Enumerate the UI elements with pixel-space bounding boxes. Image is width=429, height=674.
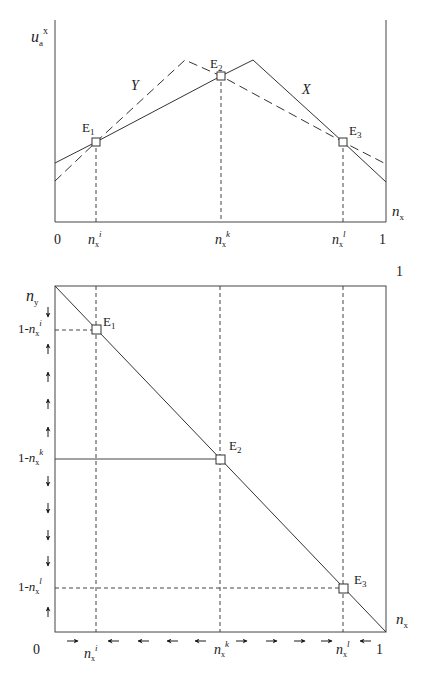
top-x-tick-ni: nxi <box>88 229 102 249</box>
top-y-axis-label: uax <box>31 25 48 48</box>
top-x-tick-nl: nxl <box>332 229 346 249</box>
bottom-e3-label: E3 <box>354 572 367 589</box>
bottom-x-tick-nk: nxk <box>214 639 230 659</box>
bottom-y-tick-ni: 1-nxi <box>18 318 42 338</box>
top-e2-label: E2 <box>210 56 222 73</box>
top-e3-label: E3 <box>349 123 362 140</box>
bottom-y-axis-label: ny <box>26 287 39 307</box>
curve-x-label: X <box>301 82 311 97</box>
diagram-canvas: E1 E2 E3 Y X uax nx 0 nxi nxk nxl 1 1 <box>0 0 429 674</box>
bottom-x-tick-ni: nxi <box>84 643 98 663</box>
bottom-x-axis-label: nx <box>396 611 409 630</box>
top-x-tick-0: 0 <box>54 232 61 247</box>
top-e2-marker <box>217 72 225 80</box>
stray-label: 1 <box>396 264 403 279</box>
curve-y-label: Y <box>131 78 141 93</box>
top-x-tick-nk: nxk <box>215 229 231 249</box>
top-panel: E1 E2 E3 Y X uax nx 0 nxi nxk nxl 1 1 <box>31 20 405 279</box>
bottom-panel: E1 E2 E3 ny nx 1-nxi 1-nxk 1-nxl 0 nxi n… <box>18 286 409 663</box>
bottom-e2-marker <box>216 455 225 464</box>
bottom-e1-label: E1 <box>103 314 115 331</box>
top-x-tick-1: 1 <box>379 232 386 247</box>
top-e1-label: E1 <box>82 120 94 137</box>
top-x-axis-label: nx <box>392 203 405 222</box>
bottom-e1-marker <box>92 325 101 334</box>
bottom-y-tick-nl: 1-nxl <box>18 576 42 596</box>
top-e1-marker <box>92 138 100 146</box>
bottom-x-tick-1: 1 <box>376 642 383 657</box>
bottom-e2-label: E2 <box>229 438 241 455</box>
bottom-x-tick-nl: nxl <box>336 639 350 659</box>
bottom-y-tick-nk: 1-nxk <box>18 447 44 467</box>
bottom-x-tick-0: 0 <box>33 642 40 657</box>
bottom-e3-marker <box>339 584 348 593</box>
top-e3-marker <box>339 138 347 146</box>
